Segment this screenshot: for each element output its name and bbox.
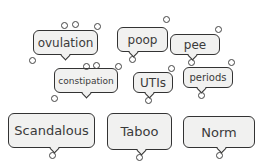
speech-bubble-taboo: Taboo — [107, 113, 172, 150]
curl-decoration-icon — [163, 16, 170, 23]
bubble-label: UTIs — [140, 76, 166, 90]
bubble-label: pee — [184, 38, 206, 52]
curl-decoration-icon — [94, 23, 101, 30]
bubble-label: Scandalous — [14, 123, 88, 138]
speech-bubble-pee: pee — [170, 34, 220, 55]
speech-bubble-norm: Norm — [183, 116, 255, 148]
curl-decoration-icon — [168, 65, 175, 72]
bubble-label: poop — [128, 33, 158, 47]
bubble-tail — [61, 51, 71, 61]
bubble-label: ovulation — [38, 36, 94, 50]
curl-decoration-icon — [198, 92, 205, 99]
bubble-tail — [82, 89, 92, 99]
curl-decoration-icon — [83, 63, 90, 70]
curl-decoration-icon — [115, 63, 122, 70]
curl-decoration-icon — [188, 59, 195, 66]
bubble-label: Taboo — [121, 124, 159, 139]
speech-bubble-constipation: constipation — [54, 68, 118, 93]
curl-decoration-icon — [228, 59, 235, 66]
speech-bubble-scandalous: Scandalous — [8, 113, 95, 148]
curl-decoration-icon — [49, 152, 56, 159]
speech-bubble-ovulation: ovulation — [33, 30, 98, 55]
bubble-label: Norm — [201, 125, 236, 140]
speech-bubble-utis: UTIs — [133, 72, 173, 93]
curl-decoration-icon — [215, 26, 222, 33]
curl-decoration-icon — [136, 154, 143, 161]
curl-decoration-icon — [129, 56, 136, 63]
curl-decoration-icon — [93, 62, 100, 69]
curl-decoration-icon — [61, 22, 68, 29]
curl-decoration-icon — [145, 97, 152, 104]
curl-decoration-icon — [216, 152, 223, 159]
bubble-label: constipation — [58, 76, 113, 86]
speech-bubble-periods: periods — [183, 67, 233, 88]
speech-bubble-poop: poop — [117, 27, 168, 52]
curl-decoration-icon — [29, 57, 36, 64]
curl-decoration-icon — [51, 95, 58, 102]
curl-decoration-icon — [72, 21, 79, 28]
bubble-label: periods — [189, 72, 226, 83]
